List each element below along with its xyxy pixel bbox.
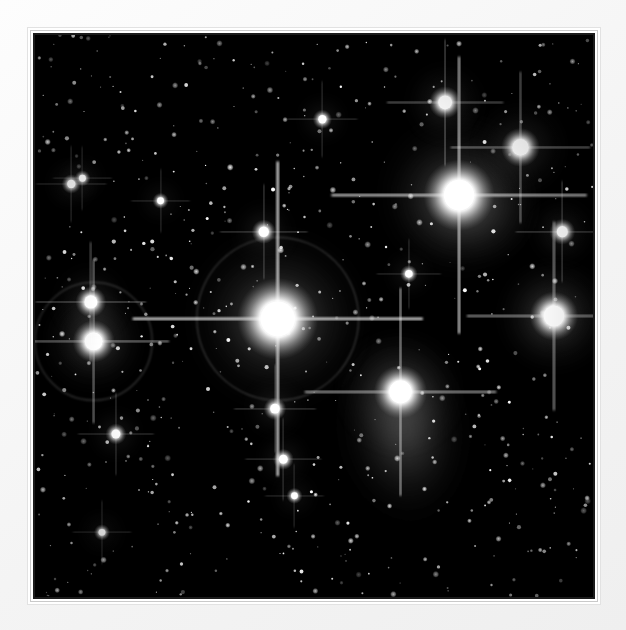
field-star [530, 549, 532, 551]
field-star [156, 592, 157, 593]
field-star [538, 547, 543, 552]
field-star [213, 58, 214, 59]
field-star [506, 465, 507, 466]
field-star [474, 545, 476, 547]
field-star [215, 570, 217, 572]
field-star [548, 477, 552, 481]
field-star [437, 509, 439, 511]
field-star [468, 434, 472, 438]
field-star [339, 466, 342, 469]
field-star [336, 49, 339, 52]
field-star [471, 509, 473, 512]
field-star [565, 457, 567, 459]
field-star [367, 101, 372, 106]
field-star [42, 392, 46, 396]
star-core [291, 492, 298, 499]
field-star [198, 118, 203, 123]
field-star [367, 474, 369, 476]
field-star [288, 192, 289, 193]
field-star [549, 547, 551, 549]
field-star [173, 125, 174, 126]
field-star [72, 81, 76, 85]
field-star [67, 582, 68, 583]
field-star [134, 110, 137, 113]
astrophotograph-image [35, 35, 593, 597]
field-star [538, 70, 542, 74]
field-star [555, 198, 556, 199]
field-star [542, 549, 546, 553]
field-star [352, 200, 356, 204]
field-star [349, 235, 352, 238]
field-star [54, 587, 60, 593]
field-star [54, 415, 55, 416]
field-star [100, 86, 101, 87]
field-star [172, 362, 174, 364]
star-core [279, 455, 288, 464]
field-star [163, 42, 166, 45]
field-star [384, 86, 385, 87]
field-star [391, 557, 393, 559]
field-star [175, 521, 179, 525]
field-star [38, 149, 41, 152]
field-star [256, 154, 259, 157]
field-star [493, 399, 499, 405]
field-star [64, 475, 65, 476]
screenshot-root [0, 0, 626, 630]
field-star [165, 568, 169, 572]
field-star [371, 141, 373, 143]
field-star [507, 444, 510, 447]
field-star [255, 168, 258, 171]
field-star [206, 387, 210, 391]
field-star [136, 409, 140, 413]
field-star [151, 75, 154, 78]
field-star [370, 226, 372, 228]
field-star [366, 42, 367, 43]
star-core [438, 95, 452, 109]
field-star [432, 571, 439, 578]
field-star [372, 203, 375, 206]
field-star [490, 584, 492, 586]
field-star [559, 579, 563, 583]
field-star [573, 488, 574, 489]
star-core [405, 270, 413, 278]
field-star [253, 67, 255, 69]
field-star [37, 468, 41, 472]
field-star [580, 507, 587, 514]
photo-frame-inner-border [33, 33, 595, 599]
field-star [243, 87, 244, 88]
field-star [119, 91, 121, 93]
field-star [476, 364, 481, 369]
field-star [80, 68, 81, 69]
field-star [272, 535, 276, 539]
field-star [178, 427, 180, 429]
field-star [38, 324, 40, 326]
star-core [260, 301, 295, 336]
field-star [87, 570, 88, 571]
field-star [313, 492, 318, 497]
field-star [302, 77, 307, 82]
field-star [550, 498, 552, 500]
field-star [487, 279, 489, 281]
field-star [150, 491, 153, 494]
field-star [47, 595, 48, 596]
field-star [338, 479, 339, 480]
field-star [448, 590, 449, 591]
field-star [55, 103, 58, 106]
field-star [247, 500, 249, 503]
field-star [344, 44, 349, 49]
field-star [302, 62, 304, 65]
field-star [484, 100, 486, 102]
field-star [271, 187, 275, 191]
field-star [503, 452, 509, 458]
field-star [155, 483, 158, 486]
field-star [109, 35, 110, 36]
field-star [73, 253, 76, 256]
field-star [500, 60, 502, 62]
field-star [50, 545, 51, 546]
field-star [57, 277, 59, 279]
field-star [300, 570, 304, 574]
field-star [114, 257, 117, 260]
field-star [402, 109, 407, 114]
field-star [287, 544, 292, 549]
field-star [161, 397, 166, 402]
